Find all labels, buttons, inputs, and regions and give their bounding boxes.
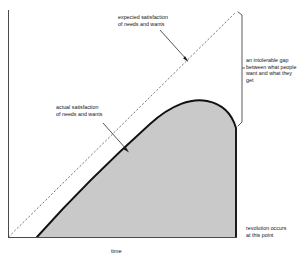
- annotation-intolerable-gap: an intolerable gap between what people w…: [246, 57, 306, 83]
- diagram-canvas: [0, 0, 307, 261]
- annotation-actual-satisfaction: actual satisfaction of needs and wants: [56, 104, 140, 117]
- gap-bracket: [238, 12, 242, 126]
- actual-satisfaction-area: [37, 100, 236, 237]
- expected-leader-line: [160, 30, 187, 60]
- diagram-figure: expected satisfaction of needs and wants…: [0, 0, 307, 261]
- annotation-revolution-point: revolution occurs at this point: [246, 225, 306, 238]
- x-axis-label: time: [111, 248, 151, 254]
- actual-leader-line: [103, 123, 127, 150]
- annotation-expected-satisfaction: expected satisfaction of needs and wants: [118, 14, 202, 27]
